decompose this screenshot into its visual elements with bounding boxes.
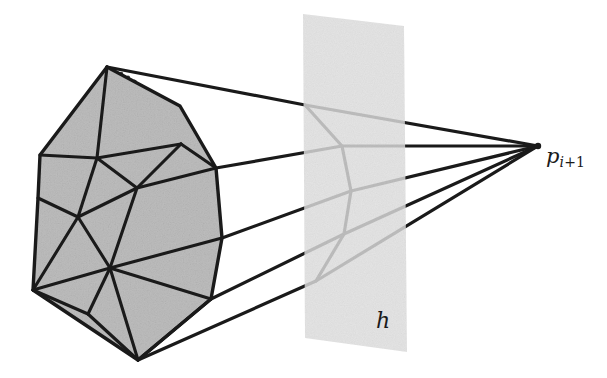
hyperplane-sheet xyxy=(303,14,407,352)
apex-dot xyxy=(535,143,541,149)
geometric-diagram xyxy=(0,0,607,378)
apex-point-label-base: p xyxy=(546,144,559,168)
hyperplane-label: h xyxy=(376,310,390,332)
apex-point-label-subscript: i+1 xyxy=(559,154,585,170)
apex-point-marker xyxy=(535,143,541,149)
figure-canvas: pi+1 h xyxy=(0,0,607,378)
apex-point-label: pi+1 xyxy=(546,146,585,169)
subscript-offset: +1 xyxy=(564,154,585,170)
hyperplane-h xyxy=(303,14,407,352)
